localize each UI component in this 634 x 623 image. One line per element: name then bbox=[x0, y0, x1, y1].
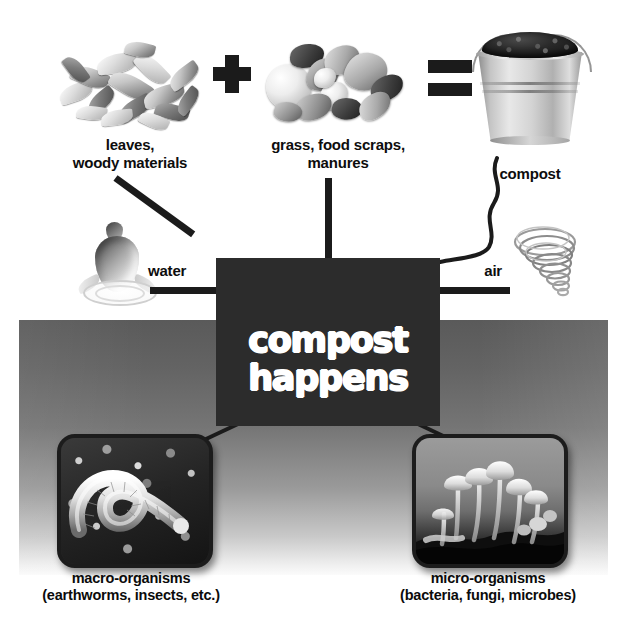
connector-scraps bbox=[325, 178, 332, 262]
connector-air bbox=[432, 287, 510, 294]
infographic-canvas: leaves, woody materials grass, food scra… bbox=[0, 0, 634, 623]
earthworm-photo bbox=[57, 434, 213, 568]
connector-water bbox=[150, 287, 225, 294]
earthworm-shape bbox=[61, 438, 209, 564]
compost-happens-title: compost happens bbox=[248, 321, 408, 397]
mushroom-shapes bbox=[416, 438, 564, 564]
mushrooms-photo bbox=[412, 434, 568, 568]
compost-happens-box: compost happens bbox=[216, 258, 440, 426]
